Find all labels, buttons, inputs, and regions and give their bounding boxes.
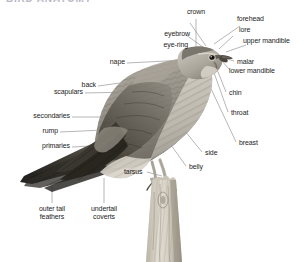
label-secondaries: secondaries xyxy=(12,112,70,120)
label-outer-tail-feathers: outer tail feathers xyxy=(28,205,76,221)
label-upper-mandible: upper mandible xyxy=(243,37,290,45)
label-scapulars: scapulars xyxy=(40,88,83,96)
label-chin: chin xyxy=(229,89,241,97)
label-rump: rump xyxy=(24,127,58,135)
label-tarsus: tarsus xyxy=(124,168,142,176)
label-undertail-coverts-line2: coverts xyxy=(93,213,115,220)
label-crown: crown xyxy=(180,8,212,16)
label-primaries: primaries xyxy=(16,142,70,150)
label-eye-ring: eye-ring xyxy=(144,41,188,49)
label-outer-tail-feathers-line1: outer tail xyxy=(39,205,65,212)
bird-anatomy-figure: BIRD ANATOMY xyxy=(0,0,305,262)
label-eyebrow: eyebrow xyxy=(148,30,190,38)
label-outer-tail-feathers-line2: feathers xyxy=(40,213,65,220)
label-lore: lore xyxy=(239,26,250,34)
label-undertail-coverts-line1: undertail xyxy=(91,205,117,212)
label-side: side xyxy=(205,149,217,157)
label-belly: belly xyxy=(189,163,203,171)
perch-post xyxy=(146,176,182,262)
label-lower-mandible: lower mandible xyxy=(229,67,275,75)
label-undertail-coverts: undertail coverts xyxy=(80,205,128,221)
label-nape: nape xyxy=(95,58,125,66)
label-throat: throat xyxy=(231,109,248,117)
label-malar: malar xyxy=(237,58,254,66)
label-forehead: forehead xyxy=(237,15,264,23)
label-breast: breast xyxy=(239,139,258,147)
